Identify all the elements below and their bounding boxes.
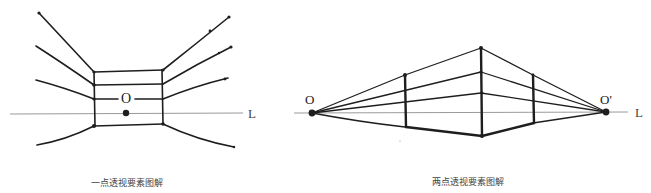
right-vp-ray-mid — [481, 72, 606, 112]
right-vertical-edge — [533, 75, 534, 123]
one-point-vp-label: O — [121, 91, 131, 107]
left-vertical-edge — [405, 75, 406, 127]
left-vp-ray-bottom — [312, 113, 405, 127]
vanishing-point-dot — [123, 110, 129, 116]
box-right-edge — [162, 70, 163, 124]
two-point-right-vp-label: O' — [600, 92, 612, 108]
box-bottom-edge — [94, 124, 163, 126]
two-point-perspective-figure — [294, 46, 628, 142]
one-point-perspective-figure — [10, 11, 243, 148]
one-point-horizon-label: L — [248, 106, 256, 122]
two-point-horizon-label: L — [635, 105, 643, 121]
right-ray-2 — [163, 47, 231, 84]
one-point-caption: 一点透视要素图解 — [91, 176, 163, 189]
right-ray-1 — [163, 17, 229, 70]
two-point-caption: 两点透视要素图解 — [432, 175, 504, 188]
box-top-edge — [94, 70, 163, 72]
right-ray-4 — [163, 124, 234, 147]
left-ray-1 — [39, 13, 94, 72]
left-ray-3 — [36, 80, 94, 99]
box-second-edge — [94, 84, 163, 85]
base-left-edge — [406, 127, 482, 136]
perspective-diagrams — [0, 0, 651, 193]
right-vanishing-point-dot — [603, 109, 610, 116]
left-vanishing-point-dot — [309, 110, 316, 117]
two-point-left-vp-label: O — [305, 92, 314, 108]
right-ray-3 — [163, 78, 228, 99]
left-ray-4 — [37, 126, 94, 145]
base-right-edge — [482, 123, 534, 136]
right-vp-ray-bottom — [533, 112, 606, 123]
horizon-line — [294, 112, 628, 113]
left-ray-2 — [36, 46, 94, 85]
